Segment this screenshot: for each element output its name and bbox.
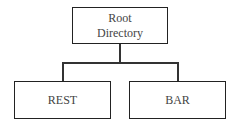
- bar-label: BAR: [165, 93, 190, 108]
- rest-label: REST: [48, 93, 77, 108]
- bar-node: BAR: [129, 81, 226, 119]
- root-label-line2: Directory: [97, 26, 143, 41]
- root-directory-node: Root Directory: [72, 7, 168, 44]
- left-child-connector: [62, 62, 64, 81]
- root-connector: [119, 44, 121, 62]
- right-child-connector: [177, 62, 179, 81]
- root-label-line1: Root: [108, 11, 131, 26]
- rest-node: REST: [14, 81, 111, 119]
- horizontal-connector: [62, 62, 178, 64]
